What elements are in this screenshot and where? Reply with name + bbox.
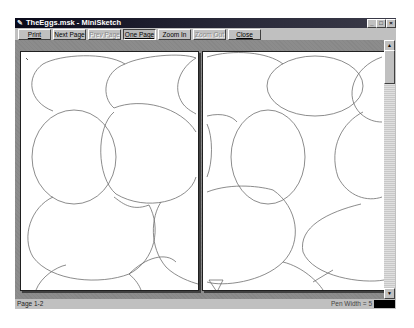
one-page-button-label: One Page [125, 31, 154, 38]
preview-workspace [15, 40, 384, 299]
scroll-down-button[interactable]: ▼ [384, 288, 395, 299]
page-2-sketch [203, 52, 384, 290]
pen-width-indicator: Pen Width = 5 [331, 299, 372, 309]
zoom-in-button[interactable]: Zoom In [158, 29, 191, 40]
next-page-button[interactable]: Next Page [53, 29, 86, 40]
pen-color-swatch [374, 300, 395, 308]
print-button[interactable]: Print [18, 29, 51, 40]
preview-toolbar: Print Next Page Prev Page One Page Zoom … [15, 28, 396, 40]
print-button-label: Print [28, 31, 41, 38]
preview-page-2[interactable] [202, 51, 385, 291]
maximize-button[interactable]: □ [376, 19, 386, 28]
zoom-in-button-label: Zoom In [163, 31, 187, 38]
scroll-thumb[interactable] [384, 50, 395, 84]
prev-page-button-label: Prev Page [89, 31, 119, 38]
title-bar[interactable]: ✎ TheEggs.msk - MiniSketch _ □ × [15, 18, 396, 28]
prev-page-button[interactable]: Prev Page [88, 29, 121, 40]
next-page-button-label: Next Page [54, 31, 84, 38]
zoom-out-button-label: Zoom Out [195, 31, 224, 38]
status-bar: Page 1-2 Pen Width = 5 [15, 299, 396, 309]
preview-page-1[interactable] [20, 51, 199, 291]
vertical-scrollbar[interactable]: ▲ ▼ [384, 40, 395, 299]
print-preview-window: ✎ TheEggs.msk - MiniSketch _ □ × Print N… [15, 18, 396, 309]
page-indicator: Page 1-2 [17, 299, 43, 309]
window-title: TheEggs.msk - MiniSketch [26, 18, 121, 28]
zoom-out-button[interactable]: Zoom Out [193, 29, 226, 40]
close-preview-button[interactable]: Close [228, 29, 261, 40]
one-page-button[interactable]: One Page [123, 29, 156, 40]
close-window-button[interactable]: × [386, 19, 396, 28]
page-1-sketch [21, 52, 198, 290]
app-icon[interactable]: ✎ [17, 19, 25, 27]
close-button-label: Close [236, 31, 253, 38]
